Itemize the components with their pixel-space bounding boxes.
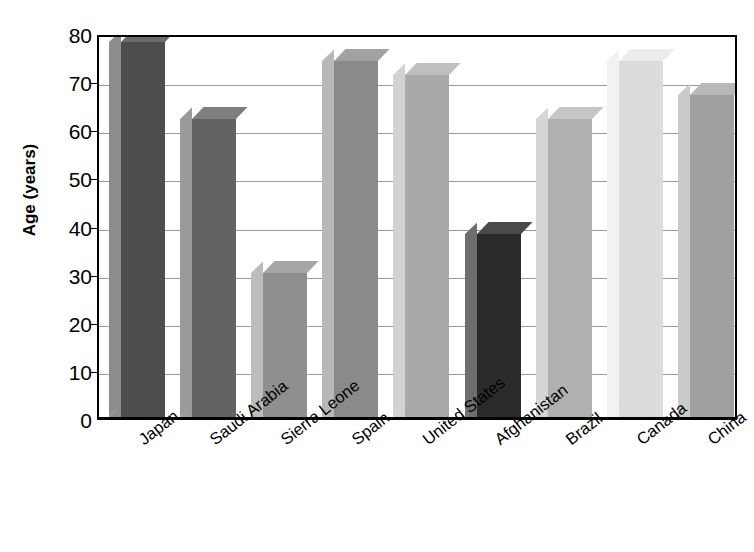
- bar-china: [690, 95, 734, 417]
- bar-side-face: [393, 64, 405, 417]
- y-tickmark: [91, 179, 99, 180]
- bar-canada: [619, 61, 663, 417]
- y-tick-label: 20: [50, 313, 92, 334]
- bar-side-face: [109, 37, 121, 417]
- bar-chart: Age (years) 01020304050607080 JapanSaudi…: [0, 0, 754, 552]
- y-tick-label: 70: [50, 73, 92, 94]
- bar-side-face: [536, 107, 548, 417]
- bar-top-face: [477, 222, 533, 234]
- bar-front-face: [192, 119, 236, 417]
- bar-front-face: [690, 95, 734, 417]
- bar-front-face: [548, 119, 592, 417]
- y-tick-label: 60: [50, 121, 92, 142]
- bar-front-face: [405, 75, 449, 417]
- bar-front-face: [334, 61, 378, 417]
- bar-side-face: [607, 49, 619, 417]
- x-axis-tick-labels: JapanSaudi ArabiaSierra LeoneSpainUnited…: [0, 420, 754, 552]
- bar-side-face: [465, 223, 477, 417]
- y-tickmark: [91, 228, 99, 229]
- bar-top-face: [619, 49, 675, 61]
- y-tick-label: 10: [50, 361, 92, 382]
- plot-area: [97, 35, 737, 420]
- y-tick-label: 80: [50, 25, 92, 46]
- bar-saudi-arabia: [192, 119, 236, 417]
- bar-spain: [334, 61, 378, 417]
- bar-side-face: [678, 83, 690, 417]
- y-tickmark: [91, 372, 99, 373]
- y-tickmark: [91, 324, 99, 325]
- bar-side-face: [322, 49, 334, 417]
- bar-top-face: [263, 261, 319, 273]
- plot-inner: [99, 37, 735, 417]
- y-tickmark: [91, 83, 99, 84]
- bar-brazil: [548, 119, 592, 417]
- y-tick-label: 30: [50, 265, 92, 286]
- bar-top-face: [192, 107, 248, 119]
- y-tickmark: [91, 131, 99, 132]
- bar-front-face: [619, 61, 663, 417]
- y-tickmark: [91, 276, 99, 277]
- bar-united-states: [405, 75, 449, 417]
- bar-front-face: [121, 42, 165, 417]
- bar-top-face: [405, 63, 461, 75]
- y-tick-label: 50: [50, 169, 92, 190]
- y-tick-label: 40: [50, 217, 92, 238]
- bar-top-face: [334, 49, 390, 61]
- bar-top-face: [548, 107, 604, 119]
- y-axis-title: Age (years): [20, 100, 40, 280]
- bar-side-face: [180, 107, 192, 417]
- bar-japan: [121, 42, 165, 417]
